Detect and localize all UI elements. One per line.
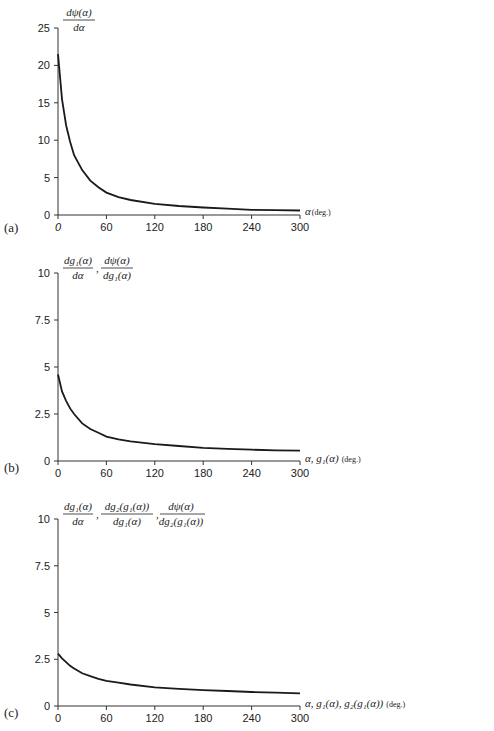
y-axis-title-a: dψ(α) dα xyxy=(63,6,95,33)
x-axis-title-c: α, g₁(α), g₂(g₁(α))(deg.) xyxy=(305,697,405,710)
panel-label-c: (c) xyxy=(4,705,18,720)
ylabel-denominator: dg₁(α) xyxy=(103,269,131,282)
y-ticks-a: 25 20 15 10 5 0 xyxy=(38,22,58,221)
xtick-label: 240 xyxy=(242,712,260,724)
ylabel-numerator: dψ(α) xyxy=(66,6,92,19)
ytick-label: 5 xyxy=(44,607,50,619)
ylabel-denominator: dα xyxy=(73,21,85,33)
xtick-label: 0 xyxy=(55,221,62,233)
figure: 25 20 15 10 5 0 0 60 120 180 240 300 (a)… xyxy=(0,0,494,731)
xtick-label: 60 xyxy=(100,467,112,479)
ytick-label: 10 xyxy=(38,513,50,525)
ytick-label: 5 xyxy=(44,172,50,184)
x-ticks-b: 0 60 120 180 240 300 xyxy=(55,461,309,479)
ytick-label: 7.5 xyxy=(35,560,50,572)
ylabel-separator: , xyxy=(96,508,99,520)
ylabel-numerator: dg₁(α) xyxy=(64,500,92,513)
x-axis-title-b: α, g₁(α)(deg.) xyxy=(305,452,361,465)
ylabel-numerator: dψ(α) xyxy=(104,254,130,267)
ytick-label: 0 xyxy=(44,700,50,712)
x-axis-title-a: α(deg.) xyxy=(305,205,331,217)
series-line-a xyxy=(58,54,300,210)
chart-b: 10 7.5 5 2.5 0 0 60 120 180 240 300 (b) … xyxy=(4,254,361,479)
series-line-b xyxy=(58,375,300,451)
ytick-label: 20 xyxy=(38,59,50,71)
panel-label-a: (a) xyxy=(4,220,18,235)
chart-c: 10 7.5 5 2.5 0 0 60 120 180 240 300 (c) … xyxy=(4,500,405,724)
ytick-label: 0 xyxy=(44,455,50,467)
ytick-label: 7.5 xyxy=(35,314,50,326)
ytick-label: 2.5 xyxy=(35,653,50,665)
ytick-label: 10 xyxy=(38,267,50,279)
ylabel-denominator: dg₂(g₁(α)) xyxy=(159,515,204,528)
chart-a: 25 20 15 10 5 0 0 60 120 180 240 300 (a)… xyxy=(4,6,331,235)
xtick-label: 120 xyxy=(146,467,164,479)
xtick-label: 180 xyxy=(194,712,212,724)
ylabel-numerator: dg₂(g₁(α)) xyxy=(105,500,150,513)
xtick-label: 120 xyxy=(146,712,164,724)
xtick-label: 60 xyxy=(100,712,112,724)
xtick-label: 300 xyxy=(291,221,309,233)
x-ticks-a: 0 60 120 180 240 300 xyxy=(55,215,309,233)
ytick-label: 10 xyxy=(38,134,50,146)
y-axis-title-b: dg₁(α) dα , dψ(α) dg₁(α) xyxy=(63,254,133,282)
ytick-label: 0 xyxy=(44,209,50,221)
ylabel-numerator: dψ(α) xyxy=(168,500,194,513)
y-ticks-b: 10 7.5 5 2.5 0 xyxy=(35,267,58,467)
xtick-label: 180 xyxy=(194,467,212,479)
x-ticks-c: 0 60 120 180 240 300 xyxy=(55,706,309,724)
xtick-label: 300 xyxy=(291,712,309,724)
ylabel-denominator: dα xyxy=(72,269,84,281)
xtick-label: 120 xyxy=(146,221,164,233)
ylabel-denominator: dα xyxy=(72,515,84,527)
xtick-label: 240 xyxy=(242,467,260,479)
ytick-label: 25 xyxy=(38,22,50,34)
xtick-label: 240 xyxy=(242,221,260,233)
y-ticks-c: 10 7.5 5 2.5 0 xyxy=(35,513,58,712)
ytick-label: 15 xyxy=(38,97,50,109)
series-line-c xyxy=(58,654,300,694)
xtick-label: 180 xyxy=(194,221,212,233)
ylabel-separator: , xyxy=(96,262,99,274)
y-axis-title-c: dg₁(α) dα , dg₂(g₁(α)) dg₁(α) , dψ(α) dg… xyxy=(63,500,205,528)
ylabel-denominator: dg₁(α) xyxy=(113,515,141,528)
ytick-label: 2.5 xyxy=(35,408,50,420)
xtick-label: 0 xyxy=(55,712,61,724)
xtick-label: 60 xyxy=(100,221,112,233)
xtick-label: 300 xyxy=(291,467,309,479)
xtick-label: 0 xyxy=(55,467,61,479)
ytick-label: 5 xyxy=(44,361,50,373)
ylabel-numerator: dg₁(α) xyxy=(64,254,92,267)
panel-label-b: (b) xyxy=(4,460,19,475)
